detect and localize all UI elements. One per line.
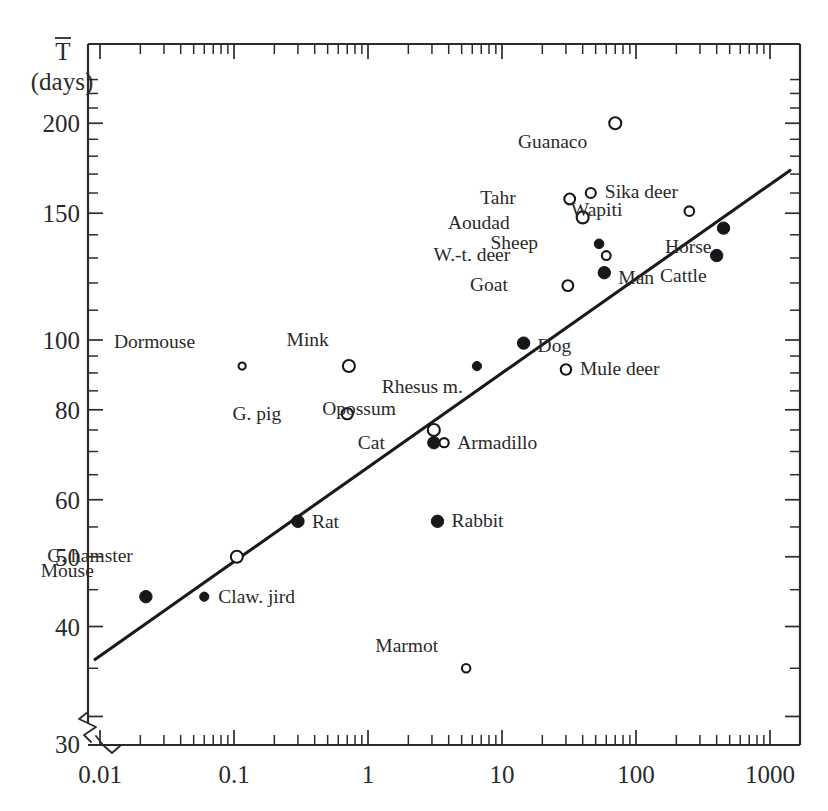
y-tick-label: 150	[43, 200, 81, 227]
y-axis-units: (days)	[31, 68, 93, 96]
data-point-label: Mink	[287, 329, 330, 350]
right-axis-ticks	[785, 80, 800, 717]
data-point-label: Goat	[470, 274, 508, 295]
data-point-marker[interactable]	[292, 515, 304, 527]
data-point-marker[interactable]	[440, 438, 449, 447]
scatter-chart: T (days) 2001501008060504030 0.010.11101…	[0, 0, 828, 811]
axis-break-marks	[79, 712, 131, 753]
data-point-marker[interactable]	[717, 222, 729, 234]
data-point-label: Rhesus m.	[382, 376, 463, 397]
plot-canvas: T (days) 2001501008060504030 0.010.11101…	[0, 0, 828, 811]
data-point-marker[interactable]	[586, 188, 596, 198]
x-tick-labels: 0.010.11101001000	[78, 761, 795, 788]
data-point-marker[interactable]	[561, 364, 571, 374]
data-point-marker[interactable]	[462, 664, 470, 672]
data-point-marker[interactable]	[562, 280, 573, 291]
top-axis-ticks	[100, 44, 770, 59]
y-tick-label: 80	[55, 397, 80, 424]
data-point-label: Opossum	[322, 398, 396, 419]
data-point-label: Dormouse	[114, 331, 195, 352]
data-point-label: Marmot	[375, 635, 438, 656]
data-point-label: Sheep	[490, 232, 538, 253]
data-point-label: Rabbit	[451, 510, 504, 531]
data-point-label: Claw. jird	[218, 586, 295, 607]
data-point-marker[interactable]	[431, 515, 443, 527]
data-point-marker[interactable]	[710, 249, 722, 261]
data-point-marker[interactable]	[594, 239, 604, 249]
data-point-marker[interactable]	[200, 592, 209, 601]
y-tick-labels: 2001501008060504030	[43, 110, 81, 758]
y-axis-ticks	[88, 80, 103, 717]
y-tick-label: 60	[55, 487, 80, 514]
data-point-label: Horse	[665, 236, 712, 257]
data-point-marker[interactable]	[598, 267, 610, 279]
y-axis-symbol: T	[55, 38, 70, 65]
data-point-marker[interactable]	[472, 361, 481, 370]
data-point-label: Wapiti	[571, 199, 623, 220]
data-point-marker[interactable]	[428, 424, 440, 436]
data-point-marker[interactable]	[685, 206, 695, 216]
data-point-label: Dog	[538, 335, 572, 356]
data-label-group: MouseClaw. jirdG. hamsterDormouseRatMink…	[41, 131, 712, 656]
data-point-label: G. pig	[232, 403, 281, 424]
x-tick-label: 100	[617, 761, 655, 788]
data-point-marker[interactable]	[517, 337, 529, 349]
data-point-label: Tahr	[480, 187, 516, 208]
data-point-label: Guanaco	[518, 131, 587, 152]
data-point-label: G. hamster	[47, 545, 133, 566]
y-tick-label: 200	[43, 110, 81, 137]
x-tick-label: 0.01	[78, 761, 122, 788]
y-axis-title: T (days)	[31, 38, 93, 96]
data-point-label: Aoudad	[448, 212, 510, 233]
x-tick-label: 1	[362, 761, 375, 788]
data-point-marker[interactable]	[140, 591, 152, 603]
x-tick-label: 1000	[745, 761, 795, 788]
data-point-marker[interactable]	[609, 117, 621, 129]
y-tick-label: 100	[43, 327, 81, 354]
x-axis-ticks	[100, 730, 770, 745]
data-point-marker[interactable]	[231, 551, 243, 563]
data-point-label: Cattle	[660, 265, 707, 286]
data-point-label: Mule deer	[580, 358, 660, 379]
data-point-label: Armadillo	[457, 432, 537, 453]
data-point-label: Cat	[358, 432, 386, 453]
data-point-label: Man	[618, 267, 654, 288]
data-point-marker[interactable]	[602, 251, 611, 260]
data-point-marker[interactable]	[428, 437, 440, 449]
data-point-marker[interactable]	[239, 362, 246, 369]
y-tick-label: 40	[55, 614, 80, 641]
x-tick-label: 10	[490, 761, 515, 788]
data-point-label: Rat	[312, 511, 340, 532]
x-tick-label: 0.1	[218, 761, 249, 788]
y-tick-label: 30	[55, 731, 80, 758]
data-point-marker[interactable]	[343, 360, 355, 372]
